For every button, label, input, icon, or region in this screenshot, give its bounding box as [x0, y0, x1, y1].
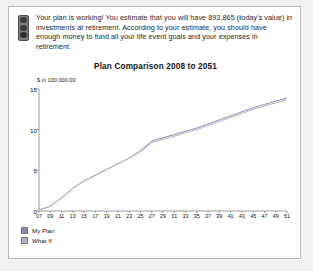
x-tick-label: 15: [81, 213, 87, 219]
axis-lines: [39, 89, 287, 211]
legend-item: My Plan: [21, 225, 54, 235]
x-tick-label: 31: [171, 213, 177, 219]
x-tick-label: 17: [92, 213, 98, 219]
x-tick-label: 41: [228, 213, 234, 219]
chart-svg: [9, 85, 302, 217]
x-tick-label: 25: [137, 213, 143, 219]
x-tick-label: 37: [205, 213, 211, 219]
plan-comparison-panel: Your plan is working! You estimate that …: [8, 6, 301, 259]
x-tick-label: 09: [47, 213, 53, 219]
x-tick-label: 19: [104, 213, 110, 219]
x-tick-label: 47: [261, 213, 267, 219]
x-tick-label: 51: [284, 213, 290, 219]
x-tick-label: 49: [273, 213, 279, 219]
legend-item: What If: [21, 235, 54, 245]
x-tick-label: 21: [115, 213, 121, 219]
series-line: [39, 100, 287, 211]
status-message: Your plan is working! You estimate that …: [17, 13, 293, 51]
chart-plot-area: 051015 070911131517192123252729313335373…: [9, 85, 302, 217]
x-tick-label: 45: [250, 213, 256, 219]
legend-label: What If: [32, 237, 52, 244]
x-tick-label: 13: [70, 213, 76, 219]
status-message-text: Your plan is working! You estimate that …: [36, 13, 293, 51]
x-tick-label: 33: [183, 213, 189, 219]
legend-label: My Plan: [32, 227, 54, 234]
y-axis-label: $ in 100,000.00: [37, 77, 76, 83]
x-tick-label: 23: [126, 213, 132, 219]
chart-title: Plan Comparison 2008 to 2051: [9, 62, 302, 71]
x-axis-ticks: 0709111315171921232527293133353739414345…: [39, 213, 287, 225]
traffic-light-icon: [17, 15, 30, 41]
x-tick-label: 11: [59, 213, 65, 219]
series-line: [39, 98, 287, 210]
legend-swatch: [21, 227, 28, 234]
x-tick-label: 43: [239, 213, 245, 219]
x-tick-label: 39: [216, 213, 222, 219]
x-tick-label: 07: [36, 213, 42, 219]
screen-background: Your plan is working! You estimate that …: [0, 0, 313, 271]
x-tick-label: 29: [160, 213, 166, 219]
chart-legend: My PlanWhat If: [21, 225, 54, 245]
x-tick-label: 35: [194, 213, 200, 219]
series-lines: [39, 98, 287, 210]
legend-swatch: [21, 237, 28, 244]
x-tick-label: 27: [149, 213, 155, 219]
